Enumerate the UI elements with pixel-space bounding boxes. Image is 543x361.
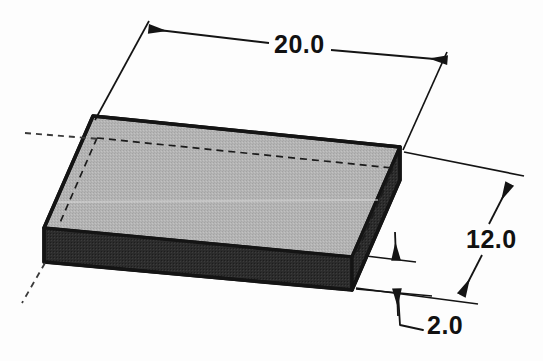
extension-line-height-top [366, 256, 416, 262]
extension-line-height-bottom [356, 289, 432, 296]
extension-line-width-top [404, 152, 524, 176]
extension-line-length-left [95, 21, 149, 120]
dimension-line-length-left-segment [150, 29, 269, 43]
extension-line-length-right [403, 52, 447, 150]
dimension-label-length: 20.0 [274, 30, 325, 59]
rectangular-block [44, 116, 400, 290]
dimension-label-height: 2.0 [427, 311, 463, 340]
isometric-block-figure [0, 0, 543, 361]
dimension-line-width-upper-segment [489, 185, 509, 224]
leader-line-height [398, 293, 423, 330]
dimension-arrow-height-top [395, 232, 396, 259]
dimension-label-width: 12.0 [466, 225, 517, 254]
dimension-line-length-right-segment [331, 50, 446, 60]
axis-line-lower-left [22, 263, 45, 303]
dimension-line-width-lower-segment [462, 255, 482, 294]
drawing-canvas: 20.0 12.0 2.0 [0, 0, 543, 361]
